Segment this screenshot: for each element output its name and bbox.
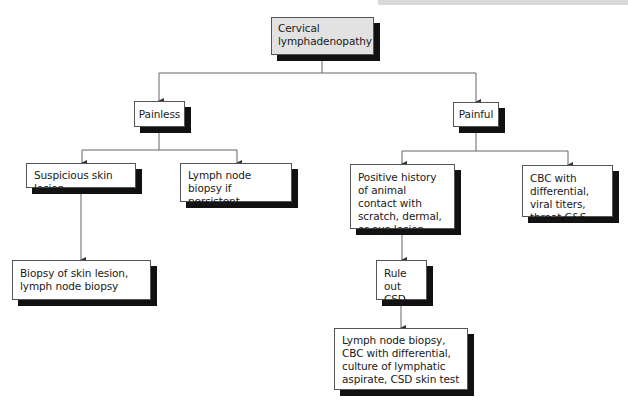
- node-label: Positive history of animal contact with …: [358, 171, 442, 235]
- node-final-workup: Lymph node biopsy, CBC with differential…: [334, 328, 468, 390]
- node-painless: Painless: [134, 101, 185, 127]
- node-label: Rule out CSD: [384, 267, 406, 305]
- node-label: Biopsy of skin lesion, lymph node biopsy: [20, 267, 128, 292]
- node-positive-history: Positive history of animal contact with …: [350, 164, 455, 229]
- node-suspicious-skin-lesion: Suspicious skin lesion: [26, 163, 136, 188]
- node-painful: Painful: [453, 102, 499, 127]
- node-label: Painful: [459, 108, 493, 121]
- node-label: CBC with differential, viral titers, thr…: [530, 172, 589, 223]
- node-label: Cervical lymphadenopathy: [278, 22, 372, 47]
- node-rule-out-csd: Rule out CSD: [376, 260, 427, 300]
- node-label: Lymph node biopsy if persistent: [188, 169, 251, 207]
- node-label: Painless: [139, 108, 180, 121]
- node-cervical-lymphadenopathy: Cervical lymphadenopathy: [271, 17, 374, 55]
- node-lymph-node-biopsy-if-persistent: Lymph node biopsy if persistent: [180, 163, 292, 202]
- node-biopsy-skin-lesion: Biopsy of skin lesion, lymph node biopsy: [12, 260, 151, 300]
- node-label: Lymph node biopsy, CBC with differential…: [342, 334, 459, 385]
- node-cbc-viral-titers: CBC with differential, viral titers, thr…: [522, 165, 613, 217]
